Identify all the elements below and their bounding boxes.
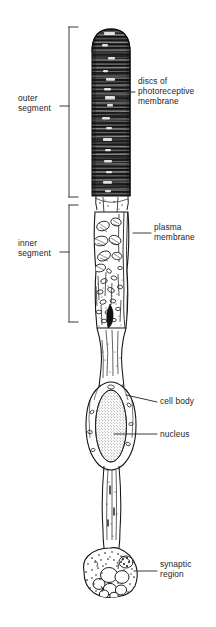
callout-label-discs-of-photoreceptive-membrane: discs of photoreceptive membrane bbox=[138, 76, 194, 107]
rod-photoreceptor-diagram: outer segment inner segment discs of pho… bbox=[0, 0, 216, 627]
axon-lower bbox=[102, 466, 121, 548]
bracket-label-outer-segment: outer segment bbox=[18, 93, 51, 113]
bracket-label-inner-segment: inner segment bbox=[18, 238, 51, 258]
outer-segment-structure bbox=[92, 29, 130, 197]
connecting-cilium bbox=[95, 196, 128, 214]
outer-segment-bracket bbox=[60, 27, 78, 197]
callout-label-cell-body: cell body bbox=[160, 396, 194, 406]
callout-label-synaptic-region: synaptic region bbox=[160, 559, 192, 579]
callout-label-plasma-membrane: plasma membrane bbox=[154, 222, 195, 242]
synaptic-terminal-structure bbox=[84, 548, 138, 600]
synaptic-ribbon bbox=[119, 556, 133, 568]
inner-segment-structure bbox=[93, 212, 128, 328]
outer-segment-body bbox=[92, 29, 130, 196]
inner-segment-bracket bbox=[60, 205, 78, 322]
callout-label-nucleus: nucleus bbox=[160, 429, 190, 439]
axon-upper bbox=[97, 328, 126, 387]
